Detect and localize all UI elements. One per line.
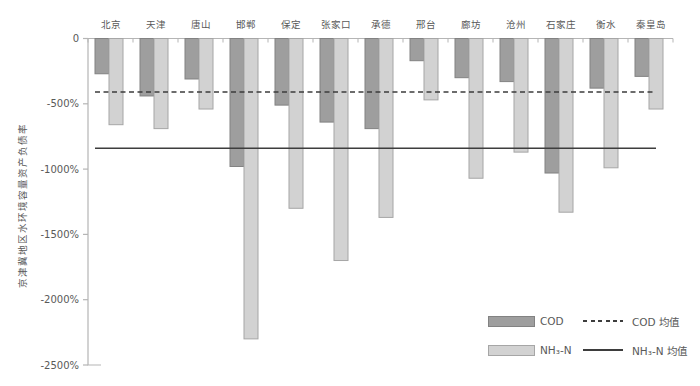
y-tick-label-1: -500%	[47, 98, 79, 109]
bar-nh3-1	[154, 39, 168, 129]
legend-label-nh3: NH₃-N	[535, 344, 583, 356]
bar-cod-1	[140, 39, 154, 96]
bar-nh3-0	[109, 39, 123, 125]
bar-nh3-6	[379, 39, 393, 218]
bar-cod-7	[410, 39, 424, 61]
y-tick-label-4: -2000%	[40, 294, 79, 305]
category-label-3: 邯郸	[236, 19, 256, 30]
chart-figure: 京津冀地区水环境容量资产负债率 0-500%-1000%-1500%-2000%…	[0, 0, 700, 386]
bar-nh3-8	[469, 39, 483, 179]
legend-line-cod-mean	[583, 320, 623, 322]
bar-cod-12	[635, 39, 649, 77]
bar-cod-2	[185, 39, 199, 79]
bar-nh3-5	[334, 39, 348, 261]
bar-nh3-10	[559, 39, 573, 213]
y-tick-label-3: -1500%	[40, 229, 79, 240]
bar-nh3-7	[424, 39, 438, 100]
bar-nh3-4	[289, 39, 303, 209]
category-label-1: 天津	[146, 19, 166, 30]
legend-row-cod: COD COD 均值	[488, 315, 687, 327]
bar-cod-10	[545, 39, 559, 174]
bar-nh3-12	[649, 39, 663, 110]
y-tick-label-5: -2500%	[40, 360, 79, 371]
category-label-12: 秦皇岛	[636, 19, 666, 30]
legend-label-cod: COD	[535, 315, 583, 327]
y-tick-label-0: 0	[73, 33, 79, 44]
bar-cod-5	[320, 39, 334, 123]
bar-cod-3	[230, 39, 244, 167]
bar-nh3-3	[244, 39, 258, 339]
category-label-0: 北京	[101, 19, 121, 30]
y-axis-line	[88, 39, 101, 366]
category-label-5: 张家口	[321, 19, 351, 30]
bar-cod-9	[500, 39, 514, 82]
category-label-4: 保定	[281, 19, 301, 30]
bar-nh3-2	[199, 39, 213, 110]
legend-row-nh3: NH₃-N NH₃-N 均值	[488, 344, 687, 356]
legend-line-nh3-mean	[583, 349, 623, 351]
category-label-11: 衡水	[596, 19, 616, 30]
bar-cod-4	[275, 39, 289, 106]
legend-label-nh3-mean: NH₃-N 均值	[623, 343, 687, 358]
y-tick-label-2: -1000%	[40, 164, 79, 175]
category-label-9: 沧州	[506, 19, 526, 30]
category-label-10: 石家庄	[546, 19, 576, 30]
bar-cod-8	[455, 39, 469, 78]
category-label-7: 邢台	[416, 19, 436, 30]
bar-cod-0	[95, 39, 109, 74]
legend-swatch-cod	[488, 316, 535, 327]
category-label-2: 唐山	[191, 19, 211, 30]
legend-label-cod-mean: COD 均值	[623, 314, 679, 329]
legend: COD COD 均值 NH₃-N NH₃-N 均值	[488, 315, 687, 356]
category-label-8: 廊坊	[461, 19, 481, 30]
bar-cod-6	[365, 39, 379, 129]
legend-swatch-nh3	[488, 345, 535, 356]
bar-nh3-9	[514, 39, 528, 153]
bar-cod-11	[590, 39, 604, 89]
category-label-6: 承德	[371, 19, 391, 30]
